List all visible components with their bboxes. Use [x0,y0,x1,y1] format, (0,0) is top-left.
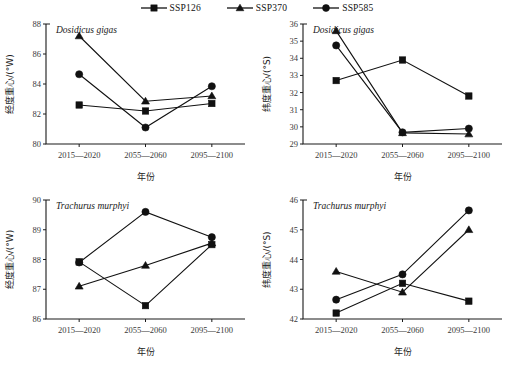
figure-panel-grid: SSP126SSP370SSP585 80828486882015—202020… [0,0,514,367]
x-tick-label: 2055—2060 [124,325,167,335]
data-point-ssp370 [332,267,340,274]
chart-trachurus-latitude: 42434445462015—20202055—20602095—2100Tra… [257,192,514,367]
chart-dosidicus-longitude: 80828486882015—20202055—20602095—2100Dos… [0,16,257,192]
species-label: Dosidicus gigas [312,25,374,35]
x-tick-label: 2015—2020 [58,325,101,335]
y-tick-label: 86 [33,314,42,324]
data-point-ssp585 [465,207,472,214]
x-tick-label: 2095—2100 [191,325,234,335]
legend-item-ssp585[interactable]: SSP585 [313,2,373,14]
data-point-ssp585 [399,129,406,136]
chart-legend: SSP126SSP370SSP585 [0,0,514,16]
data-point-ssp585 [333,42,340,49]
data-point-ssp126 [399,57,405,63]
y-tick-label: 31 [290,105,299,115]
panel-dosidicus-longitude: 80828486882015—20202055—20602095—2100Dos… [0,16,257,192]
y-tick-label: 30 [290,122,299,132]
data-point-ssp585 [142,124,149,131]
data-point-ssp126 [466,93,472,99]
x-tick-label: 2055—2060 [381,325,424,335]
y-tick-label: 80 [33,139,42,149]
panel-dosidicus-latitude: 29303132333435362015—20202055—20602095—2… [257,16,514,192]
y-tick-label: 45 [290,225,299,235]
y-tick-label: 89 [33,225,42,235]
y-tick-label: 33 [290,70,299,80]
x-axis-title: 年份 [394,171,412,182]
x-tick-label: 2015—2020 [58,150,101,160]
y-tick-label: 88 [33,255,42,265]
panel-trachurus-latitude: 42434445462015—20202055—20602095—2100Tra… [257,192,514,367]
data-point-ssp585 [76,259,83,266]
y-tick-label: 86 [33,49,42,59]
y-tick-label: 44 [290,255,299,265]
y-tick-label: 36 [290,19,299,29]
data-point-ssp126 [209,100,215,106]
y-tick-label: 43 [290,284,299,294]
circle-marker-icon [313,2,339,14]
y-axis-title: 纬度重心/(°S) [261,231,272,287]
y-axis-title: 纬度重心/(°S) [261,56,272,112]
y-tick-label: 42 [290,314,299,324]
series-line-ssp370 [336,31,469,134]
data-point-ssp585 [399,271,406,278]
series-line-ssp126 [336,60,469,96]
panel-trachurus-longitude: 86878889902015—20202055—20602095—2100Tra… [0,192,257,367]
data-point-ssp126 [333,310,339,316]
data-point-ssp585 [465,125,472,132]
data-point-ssp585 [142,208,149,215]
y-tick-label: 84 [33,79,42,89]
y-tick-label: 29 [290,139,299,149]
y-axis-title: 经度重心/(°W) [4,230,15,289]
y-tick-label: 87 [33,284,42,294]
series-line-ssp370 [79,36,212,101]
legend-item-ssp126[interactable]: SSP126 [141,2,201,14]
species-label: Dosidicus gigas [55,25,117,35]
data-point-ssp126 [466,298,472,304]
y-tick-label: 88 [33,19,42,29]
chart-dosidicus-latitude: 29303132333435362015—20202055—20602095—2… [257,16,514,192]
legend-label: SSP370 [256,3,287,13]
x-tick-label: 2055—2060 [381,150,424,160]
data-point-ssp370 [465,226,473,233]
x-tick-label: 2055—2060 [124,150,167,160]
data-point-ssp585 [333,296,340,303]
x-tick-label: 2095—2100 [448,325,491,335]
species-label: Trachurus murphyi [56,201,129,211]
x-tick-label: 2095—2100 [448,150,491,160]
y-tick-label: 34 [290,53,299,63]
y-tick-label: 32 [290,88,299,98]
series-line-ssp585 [79,212,212,263]
data-point-ssp370 [208,92,216,99]
series-line-ssp126 [79,245,212,306]
panels-container: 80828486882015—20202055—20602095—2100Dos… [0,16,514,367]
legend-label: SSP126 [170,3,201,13]
legend-label: SSP585 [342,3,373,13]
y-tick-label: 90 [33,195,42,205]
x-tick-label: 2015—2020 [315,325,358,335]
square-marker-icon [141,2,167,14]
data-point-ssp126 [142,302,148,308]
x-axis-title: 年份 [137,346,155,357]
y-tick-label: 46 [290,195,299,205]
data-point-ssp126 [142,108,148,114]
legend-item-ssp370[interactable]: SSP370 [227,2,287,14]
x-axis-title: 年份 [137,171,155,182]
data-point-ssp585 [76,71,83,78]
x-axis-title: 年份 [394,346,412,357]
data-point-ssp585 [208,83,215,90]
triangle-marker-icon [227,2,253,14]
y-tick-label: 35 [290,36,299,46]
x-tick-label: 2015—2020 [315,150,358,160]
data-point-ssp126 [76,102,82,108]
y-axis-title: 经度重心/(°W) [4,54,15,113]
chart-trachurus-longitude: 86878889902015—20202055—20602095—2100Tra… [0,192,257,367]
x-tick-label: 2095—2100 [191,150,234,160]
y-tick-label: 82 [33,109,42,119]
data-point-ssp585 [208,234,215,241]
species-label: Trachurus murphyi [313,201,386,211]
data-point-ssp126 [333,77,339,83]
data-point-ssp126 [399,280,405,286]
